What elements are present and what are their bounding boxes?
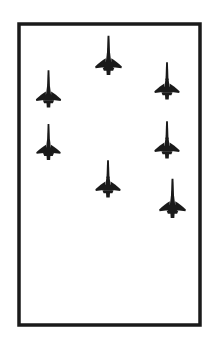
figure-container: Black silhouettes of seven delta-wing in… xyxy=(0,0,219,353)
aircraft-formation-figure xyxy=(0,0,219,353)
